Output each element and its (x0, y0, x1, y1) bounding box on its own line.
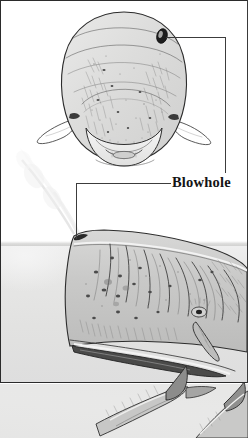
leader-line-bottom-horizontal (76, 183, 171, 184)
side-view-body-outline (65, 230, 247, 352)
leader-line-top-vertical (225, 37, 226, 173)
illustration-page: Blowhole (0, 0, 248, 438)
front-view-head-figure (37, 12, 211, 166)
whale-illustration (0, 0, 248, 438)
leader-line-top-horizontal (166, 37, 226, 38)
spout (13, 148, 82, 238)
label-blowhole: Blowhole (172, 174, 231, 191)
leader-line-bottom-vertical (76, 183, 77, 239)
